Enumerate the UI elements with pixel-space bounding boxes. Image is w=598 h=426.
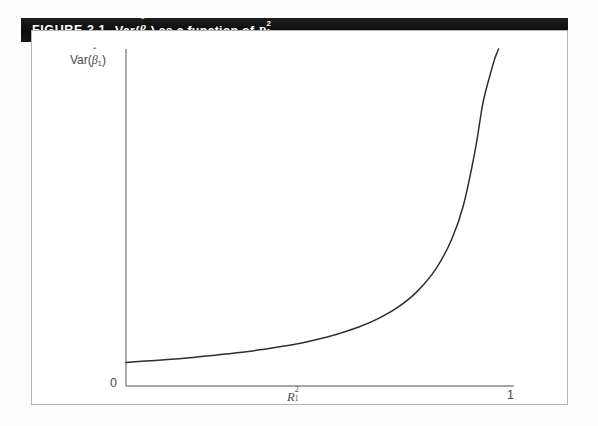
origin-tick-label: 0 [110,376,117,390]
variance-plot [32,31,569,406]
var-word-axis: Var( [70,53,92,67]
r-subscript-axis: 1 [295,394,299,403]
y-axis-label: Var(ˆβ1) [70,53,106,68]
figure-frame: Var(ˆβ1) R21 0 1 [31,30,568,405]
x-axis-label: R21 [287,388,300,405]
beta-hat-axis: ˆ [93,47,96,58]
r-symbol-axis: R [287,390,295,404]
variance-curve [126,49,498,362]
r-indices-axis: 21 [295,388,300,401]
paren-close-axis: ) [102,53,106,67]
x-max-tick-label: 1 [507,388,514,402]
beta-hat-caption: ˆ [141,18,145,28]
